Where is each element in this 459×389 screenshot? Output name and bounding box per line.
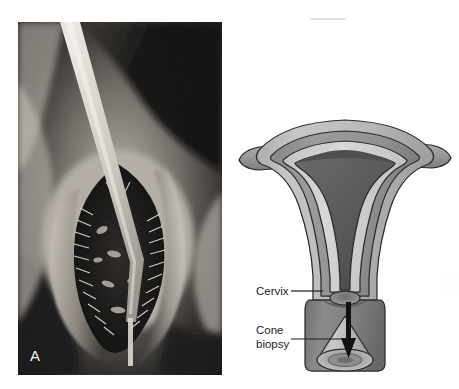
print-speck bbox=[310, 18, 346, 20]
external-os-inner bbox=[337, 357, 353, 363]
arrow-shaft bbox=[346, 302, 351, 342]
internal-os bbox=[330, 291, 360, 305]
photo-grain bbox=[18, 22, 222, 375]
label-cone-biopsy: Cone biopsy bbox=[256, 323, 289, 351]
panel-a-photograph: A bbox=[18, 22, 222, 375]
figure-root: A bbox=[0, 0, 459, 389]
cervix-photograph-graphic bbox=[18, 22, 222, 375]
page-edge-text-artifact: · · · · · · · · · · · · bbox=[446, 268, 459, 376]
panel-a-letter: A bbox=[30, 348, 40, 363]
label-cervix: Cervix bbox=[256, 284, 289, 298]
